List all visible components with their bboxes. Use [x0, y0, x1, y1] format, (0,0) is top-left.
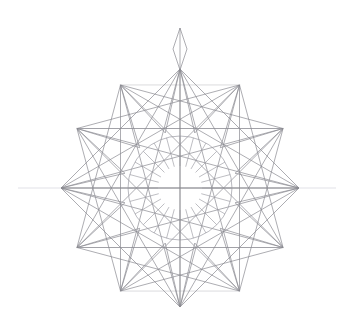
canvas-background — [0, 0, 354, 330]
star-rosette-drawing: Geometric Star Rosette Twelve-pointed co… — [0, 0, 354, 330]
figure-canvas: Geometric Star Rosette Twelve-pointed co… — [0, 0, 354, 330]
